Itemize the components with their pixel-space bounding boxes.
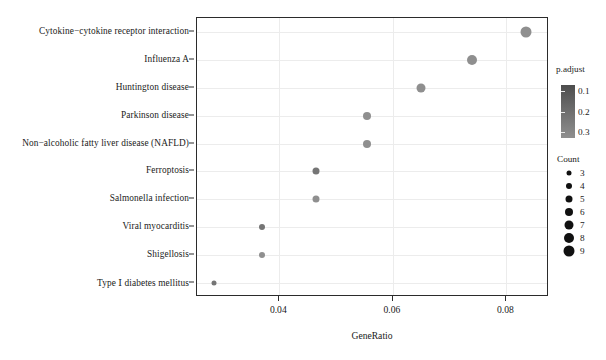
y-axis-tick: [189, 226, 194, 227]
x-axis-tick-label: 0.08: [497, 304, 514, 315]
size-legend-item: 6: [560, 205, 604, 218]
size-legend-dot: [566, 195, 573, 202]
kegg-dotplot-figure: Cytokine−cytokine receptor interactionIn…: [0, 0, 606, 360]
colorbar-tick-label: 0.2: [578, 107, 589, 117]
y-axis-tick: [189, 282, 194, 283]
grid-line-horizontal: [197, 60, 547, 61]
size-legend-dot: [564, 245, 575, 256]
size-legend-label: 6: [580, 207, 585, 217]
size-legend-label: 4: [580, 181, 585, 191]
size-legend-item: 9: [560, 244, 604, 257]
y-axis-tick: [189, 114, 194, 115]
y-axis-tick: [189, 254, 194, 255]
colorbar-tick: [561, 112, 565, 113]
y-axis-tick: [189, 170, 194, 171]
colorbar-tick-label: 0.3: [578, 127, 589, 137]
grid-line-horizontal: [197, 171, 547, 172]
size-legend-label: 3: [580, 168, 585, 178]
y-axis-tick: [189, 198, 194, 199]
grid-line-horizontal: [197, 255, 547, 256]
x-axis-tick: [505, 296, 506, 301]
data-point: [363, 112, 371, 120]
colorbar-tick: [561, 91, 565, 92]
y-axis-tick-label: Non−alcoholic fatty liver disease (NAFLD…: [22, 138, 189, 148]
data-point: [521, 26, 532, 37]
x-axis-title: GeneRatio: [196, 330, 548, 341]
y-axis-labels: Cytokine−cytokine receptor interactionIn…: [0, 0, 189, 360]
size-legend-dot: [566, 183, 572, 189]
y-axis-tick-label: Viral myocarditis: [123, 221, 189, 231]
y-axis-tick: [189, 58, 194, 59]
size-legend-label: 8: [580, 233, 585, 243]
grid-line-horizontal: [197, 88, 547, 89]
size-legend-dot: [567, 170, 572, 175]
grid-line-horizontal: [197, 283, 547, 284]
colorbar-tick: [561, 132, 565, 133]
x-axis-tick: [392, 296, 393, 301]
color-legend-title: p.adjust: [556, 64, 606, 74]
size-legend-dot: [564, 233, 574, 243]
y-axis-tick-label: Huntington disease: [116, 82, 189, 92]
size-legend-item: 7: [560, 218, 604, 231]
size-legend-item: 4: [560, 179, 604, 192]
x-axis-tick-label: 0.04: [270, 304, 287, 315]
y-axis-tick-label: Type Ⅰ diabetes mellitus: [97, 277, 189, 288]
size-legend-dot: [565, 220, 574, 229]
data-point: [259, 224, 265, 230]
data-point: [313, 168, 320, 175]
x-axis-tick: [278, 296, 279, 301]
y-axis-tick-label: Shigellosis: [147, 249, 189, 259]
size-legend-label: 7: [580, 220, 585, 230]
size-legend-label: 5: [580, 194, 585, 204]
data-point: [417, 83, 426, 92]
size-legend-title: Count: [557, 154, 579, 164]
y-axis-tick-label: Parkinson disease: [121, 110, 189, 120]
y-axis-tick: [189, 86, 194, 87]
data-point: [313, 196, 320, 203]
data-point: [363, 140, 371, 148]
size-legend-item: 8: [560, 231, 604, 244]
plot-panel: [196, 17, 548, 296]
size-legend-label: 9: [580, 246, 585, 256]
data-point: [467, 55, 477, 65]
size-legend-item: 5: [560, 192, 604, 205]
colorbar-tick-label: 0.1: [578, 86, 589, 96]
data-point: [212, 281, 217, 286]
size-legend-item: 3: [560, 166, 604, 179]
size-legend-dot: [565, 208, 573, 216]
grid-line-horizontal: [197, 32, 547, 33]
y-axis-tick: [189, 142, 194, 143]
grid-line-horizontal: [197, 199, 547, 200]
data-point: [259, 252, 265, 258]
y-axis-tick: [189, 30, 194, 31]
y-axis-tick-label: Influenza A: [144, 54, 189, 64]
y-axis-tick-label: Cytokine−cytokine receptor interaction: [39, 26, 189, 36]
x-axis-tick-label: 0.06: [383, 304, 400, 315]
legend-area: p.adjust: [556, 64, 606, 74]
y-axis-tick-label: Ferroptosis: [146, 165, 189, 175]
y-axis-tick-label: Salmonella infection: [110, 193, 189, 203]
grid-line-horizontal: [197, 116, 547, 117]
grid-line-horizontal: [197, 227, 547, 228]
grid-line-horizontal: [197, 144, 547, 145]
